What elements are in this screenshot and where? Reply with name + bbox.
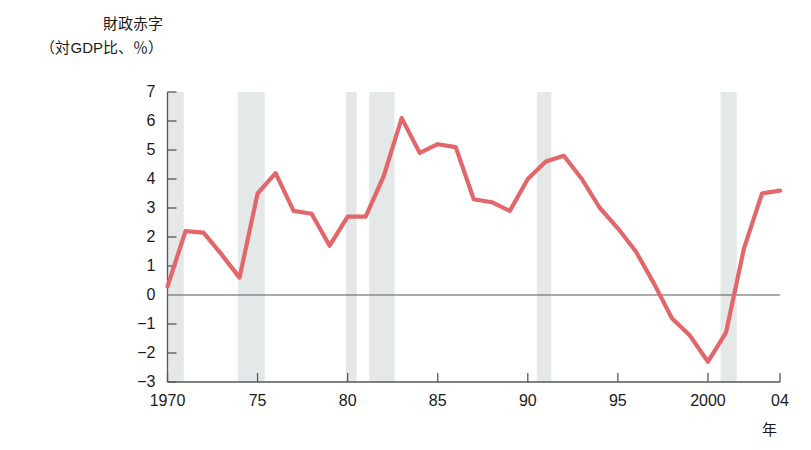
recession-band <box>346 92 357 382</box>
deficit-line-chart: 財政赤字 （対GDP比、％） 76543210−1−2−3 1970758085… <box>0 0 811 450</box>
recession-band <box>238 92 265 382</box>
x-tick-label: 1970 <box>150 392 186 410</box>
recession-band <box>369 92 394 382</box>
y-tick-label: 3 <box>116 199 156 217</box>
y-tick-label: 1 <box>116 257 156 275</box>
y-tick-label: 2 <box>116 228 156 246</box>
y-tick-label: −2 <box>116 344 156 362</box>
y-tick-label: 4 <box>116 170 156 188</box>
x-tick-label: 85 <box>429 392 447 410</box>
x-tick-label: 95 <box>609 392 627 410</box>
y-tick-label: 0 <box>116 286 156 304</box>
recession-band <box>537 92 551 382</box>
y-tick-label: −3 <box>116 373 156 391</box>
recession-band-group <box>168 92 737 382</box>
x-tick-label: 80 <box>339 392 357 410</box>
x-tick-label: 90 <box>519 392 537 410</box>
y-tick-label: 5 <box>116 141 156 159</box>
x-tick-label: 04 <box>771 392 789 410</box>
y-tick-label: 6 <box>116 112 156 130</box>
x-tick-label: 2000 <box>690 392 726 410</box>
y-tick-label: −1 <box>116 315 156 333</box>
y-tick-label: 7 <box>116 83 156 101</box>
x-tick-label: 75 <box>249 392 267 410</box>
x-axis-unit-label: 年 <box>762 418 777 439</box>
